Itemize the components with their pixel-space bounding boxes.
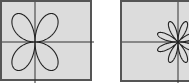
- rose-curve-4-petal-plot: [2, 2, 94, 83]
- rose-curve-8-petal-plot: [122, 2, 189, 83]
- rose-curve-8-petal-panel: [120, 0, 189, 82]
- rose-curve-4-petal-panel: [0, 0, 92, 81]
